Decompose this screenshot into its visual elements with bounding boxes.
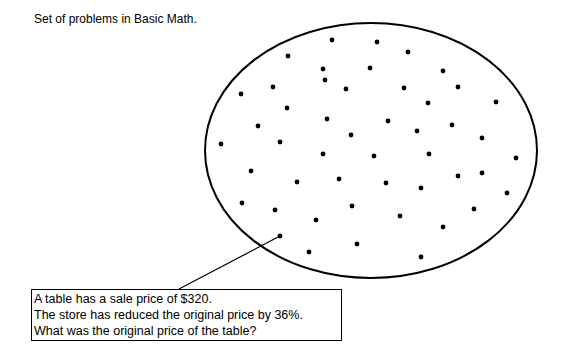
problem-dot xyxy=(325,117,330,122)
problem-dot xyxy=(307,250,312,255)
problem-dot xyxy=(456,174,461,179)
problem-dot xyxy=(375,40,380,45)
callout-line-3: What was the original price of the table… xyxy=(34,323,341,339)
problem-dot xyxy=(426,101,431,106)
problem-dot xyxy=(350,204,355,209)
problem-dot xyxy=(273,208,278,213)
problem-dot xyxy=(355,242,360,247)
problem-dots xyxy=(219,38,519,260)
problem-dot xyxy=(349,133,354,138)
callout-line-2: The store has reduced the original price… xyxy=(34,307,341,323)
problem-dot xyxy=(219,142,224,147)
problem-dot xyxy=(286,54,291,59)
problem-set-ellipse xyxy=(205,23,537,278)
callout-leader-line xyxy=(179,236,280,289)
problem-dot xyxy=(384,181,389,186)
problem-dot xyxy=(494,100,499,105)
problem-dot xyxy=(249,169,254,174)
problem-dot xyxy=(368,66,373,71)
problem-dot xyxy=(239,92,244,97)
problem-dot xyxy=(372,154,377,159)
problem-dot xyxy=(256,124,261,129)
problem-dot xyxy=(330,38,335,43)
problem-dot xyxy=(505,191,510,196)
problem-dot xyxy=(441,225,446,230)
problem-dot xyxy=(402,86,407,91)
problem-dot xyxy=(321,152,326,157)
problem-dot xyxy=(314,218,319,223)
problem-dot xyxy=(427,152,432,157)
problem-dot xyxy=(480,136,485,141)
problem-dot xyxy=(285,106,290,111)
problem-dot xyxy=(406,50,411,55)
problem-dot xyxy=(321,67,326,72)
problem-dot xyxy=(398,214,403,219)
callout-line-1: A table has a sale price of $320. xyxy=(34,291,341,307)
problem-dot xyxy=(240,201,245,206)
problem-dot xyxy=(480,171,485,176)
problem-dot xyxy=(419,255,424,260)
problem-dot xyxy=(472,207,477,212)
problem-dot xyxy=(271,85,276,90)
problem-dot xyxy=(278,140,283,145)
problem-dot xyxy=(344,87,349,92)
problem-dot xyxy=(337,177,342,182)
problem-dot xyxy=(514,156,519,161)
problem-dot xyxy=(450,123,455,128)
problem-callout-box: A table has a sale price of $320. The st… xyxy=(31,289,342,341)
problem-dot xyxy=(415,129,420,134)
problem-dot xyxy=(456,85,461,90)
problem-dot xyxy=(386,119,391,124)
problem-dot xyxy=(323,78,328,83)
problem-dot xyxy=(295,180,300,185)
problem-dot xyxy=(441,69,446,74)
problem-dot xyxy=(419,186,424,191)
